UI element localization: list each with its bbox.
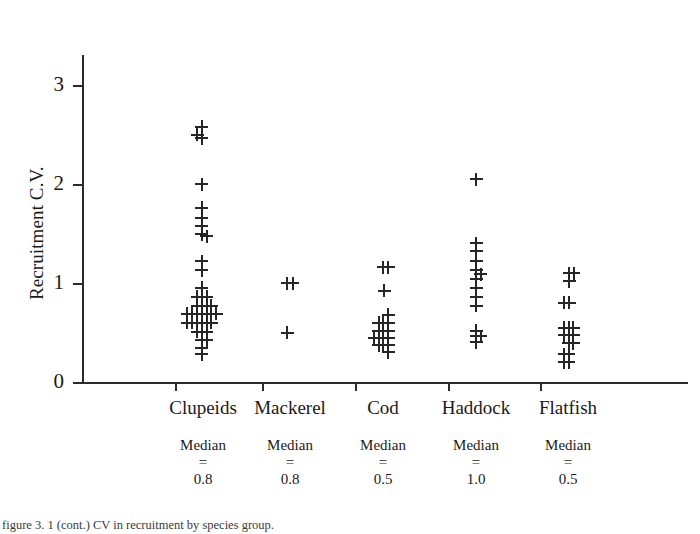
median-label: Median [513,437,623,454]
y-tick-2 [73,184,82,186]
x-category-label-flatfish: Flatfish [493,398,643,418]
plot-area: Recruitment C.V. 0123ClupeidsMedian=0.8M… [0,0,700,534]
y-tick-label-3: 3 [30,74,64,95]
data-point [562,356,575,369]
data-point [281,326,294,339]
y-tick-1 [73,283,82,285]
median-annotation-flatfish: Median=0.5 [513,437,623,488]
x-tick-cod [355,382,357,391]
y-tick-label-2: 2 [30,173,64,194]
data-point [470,336,483,349]
y-tick-3 [73,85,82,87]
data-point [563,275,576,288]
x-tick-mackerel [262,382,264,391]
median-equals-sign: = [513,454,623,471]
data-point [563,296,576,309]
y-axis-line [82,55,84,384]
data-point [382,261,395,274]
data-point [200,230,213,243]
y-tick-0 [73,382,82,384]
data-point [195,348,208,361]
x-tick-haddock [448,382,450,391]
y-tick-label-0: 0 [30,371,64,392]
figure-caption: figure 3. 1 (cont.) CV in recruitment by… [0,518,700,532]
x-tick-flatfish [540,382,542,391]
figure-container: Recruitment C.V. 0123ClupeidsMedian=0.8M… [0,0,700,534]
y-tick-label-1: 1 [30,272,64,293]
median-value: 0.5 [513,471,623,488]
data-point [378,284,391,297]
data-point [470,299,483,312]
data-point [195,132,208,145]
x-tick-clupeids [175,382,177,391]
data-point [286,277,299,290]
data-point [195,264,208,277]
data-point [470,173,483,186]
x-axis-line [82,382,688,384]
data-point [382,346,395,359]
data-point [195,178,208,191]
